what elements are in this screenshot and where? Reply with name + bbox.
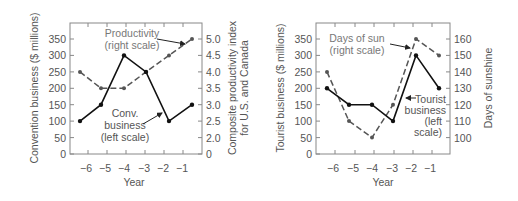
right-y-tick-labels: 0 50 100 150 200 250 300 350 <box>294 33 312 160</box>
y2-tick: 160 <box>454 33 472 45</box>
y-tick: 50 <box>300 132 312 144</box>
right-y2-ticks <box>446 39 450 138</box>
y-tick: 350 <box>48 33 66 45</box>
x-tick: −4 <box>118 162 130 174</box>
y2-tick: 4.0 <box>206 66 221 78</box>
y2-axis-title-line2: for U.S. and Canada <box>238 40 250 136</box>
conv-annotation: Conv. <box>112 107 139 119</box>
y2-axis-title-line1: Composite productivity index <box>226 20 238 155</box>
productivity-arrow <box>157 39 185 44</box>
y2-tick: 140 <box>454 66 472 78</box>
x-axis-title: Year <box>372 176 394 188</box>
x-tick: −5 <box>99 162 111 174</box>
y2-tick: 110 <box>454 115 471 127</box>
right-chart: 0 50 100 150 200 250 300 350 100 110 120… <box>274 23 494 188</box>
y-tick: 300 <box>48 49 66 61</box>
y-tick: 50 <box>54 132 66 144</box>
y-tick: 200 <box>48 82 66 94</box>
x-tick: −1 <box>176 162 188 174</box>
y2-tick: 130 <box>454 82 472 94</box>
y2-tick: 0 <box>206 148 212 160</box>
productivity-annotation-scale: (right scale) <box>105 39 160 51</box>
y-tick: 250 <box>48 66 66 78</box>
y-tick: 100 <box>294 115 312 127</box>
y-tick: 150 <box>294 99 312 111</box>
y-axis-title: Tourist business ($ millions) <box>274 24 286 153</box>
right-y2-tick-labels: 100 110 120 130 140 150 160 <box>454 33 472 144</box>
y2-tick: 3.5 <box>206 82 221 94</box>
y2-tick: 120 <box>454 99 472 111</box>
x-tick: −6 <box>327 162 339 174</box>
y-tick: 0 <box>306 148 312 160</box>
y-tick: 350 <box>294 33 312 45</box>
y2-tick: 150 <box>454 49 472 61</box>
y-axis-title: Convention business ($ millions) <box>28 12 40 163</box>
x-tick: −3 <box>386 162 398 174</box>
y2-axis-title: Days of sunshine <box>482 48 494 129</box>
y-tick: 250 <box>294 66 312 78</box>
left-y2-tick-labels: 0 2.0 2.5 3.0 3.5 4.0 4.5 5.0 <box>206 33 221 160</box>
y-tick: 300 <box>294 49 312 61</box>
left-x-tick-labels: −6 −5 −4 −3 −2 −1 <box>80 162 188 174</box>
left-y-ticks <box>70 39 74 154</box>
x-axis-title: Year <box>123 176 145 188</box>
x-tick: −6 <box>80 162 92 174</box>
figure: 0 50 100 150 200 250 300 350 0 2.0 2.5 3… <box>0 0 518 201</box>
sun-arrow <box>390 44 410 48</box>
y2-tick: 4.5 <box>206 49 221 61</box>
y2-tick: 5.0 <box>206 33 221 45</box>
y2-tick: 3.0 <box>206 99 221 111</box>
y2-tick: 2.0 <box>206 132 221 144</box>
x-tick: −4 <box>366 162 378 174</box>
conv-annotation-scale: (left scale) <box>101 131 149 143</box>
x-tick: −1 <box>424 162 436 174</box>
y-tick: 200 <box>294 82 312 94</box>
x-tick: −2 <box>157 162 169 174</box>
x-tick: −5 <box>347 162 359 174</box>
x-tick: −2 <box>405 162 417 174</box>
y-tick: 100 <box>48 115 66 127</box>
y-tick: 0 <box>60 148 66 160</box>
sun-annotation: Days of sun <box>329 32 385 44</box>
y-tick: 150 <box>48 99 66 111</box>
right-y-ticks <box>316 39 320 154</box>
productivity-annotation: Productivity <box>105 27 160 39</box>
left-y2-ticks <box>198 39 202 154</box>
tourist-annotation-scale: scale) <box>414 126 442 138</box>
sun-annotation-scale: (right scale) <box>330 44 385 56</box>
conv-arrow <box>143 113 162 124</box>
y2-tick: 2.5 <box>206 115 221 127</box>
y2-tick: 100 <box>454 132 472 144</box>
conv-annotation-2: business <box>104 119 145 131</box>
left-chart: 0 50 100 150 200 250 300 350 0 2.0 2.5 3… <box>28 12 250 188</box>
x-tick: −3 <box>138 162 150 174</box>
right-x-tick-labels: −6 −5 −4 −3 −2 −1 <box>327 162 436 174</box>
left-y-tick-labels: 0 50 100 150 200 250 300 350 <box>48 33 66 160</box>
